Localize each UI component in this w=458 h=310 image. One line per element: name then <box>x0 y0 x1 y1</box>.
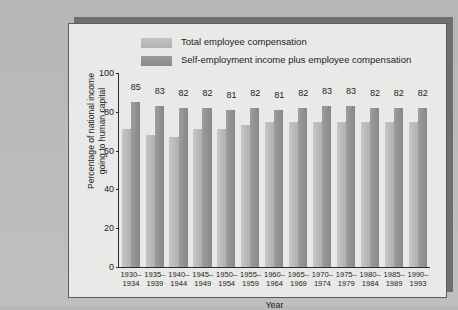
bar-series-2[interactable] <box>226 110 235 267</box>
x-axis-tick-label-line: 1984 <box>358 280 382 289</box>
bar-value-label: 82 <box>202 88 211 98</box>
bar-series-1[interactable] <box>361 122 370 268</box>
bar-series-2[interactable] <box>418 108 427 267</box>
bar-series-1[interactable] <box>169 137 178 267</box>
bar-series-1[interactable] <box>265 122 274 268</box>
bar-series-1[interactable] <box>385 122 394 268</box>
x-axis-tick-label-line: 1944 <box>167 280 191 289</box>
x-axis-title: Year <box>119 300 430 310</box>
bar-group: 831935–1939 <box>143 73 167 267</box>
x-axis-tick-label-line: 1959 <box>239 280 263 289</box>
x-axis-tick-label-line: 1934 <box>119 280 143 289</box>
bar-group: 811950–1954 <box>215 73 239 267</box>
bar-series-1[interactable] <box>241 125 250 267</box>
x-axis-tick-label: 1935–1939 <box>143 271 167 288</box>
bar-value-label: 82 <box>418 88 427 98</box>
x-axis-tick-label: 1940–1944 <box>167 271 191 288</box>
bar-group: 851930–1934 <box>119 73 143 267</box>
bar-value-label: 82 <box>298 88 307 98</box>
bar-value-label: 82 <box>250 88 259 98</box>
legend-item-total-employee-compensation: Total employee compensation <box>141 36 411 48</box>
bar-value-label: 83 <box>322 86 331 96</box>
x-axis-tick-label-line: 1949 <box>191 280 215 289</box>
legend-item-self-employment-plus: Self-employment income plus employee com… <box>141 54 411 66</box>
x-axis-tick-label: 1945–1949 <box>191 271 215 288</box>
bar-series-2[interactable] <box>131 102 140 267</box>
bar-series-2[interactable] <box>346 106 355 267</box>
x-axis-tick-label-line: 1989 <box>382 280 406 289</box>
bar-groups: 851930–1934831935–1939821940–1944821945–… <box>119 73 430 267</box>
bar-series-1[interactable] <box>337 122 346 268</box>
legend-swatch-icon-series-1 <box>141 38 172 48</box>
bar-series-2[interactable] <box>155 106 164 267</box>
bar-value-label: 83 <box>155 86 164 96</box>
x-axis-tick-label: 1950–1954 <box>215 271 239 288</box>
legend-label-series-1: Total employee compensation <box>181 36 307 47</box>
bar-value-label: 85 <box>131 82 140 92</box>
bar-series-1[interactable] <box>313 122 322 268</box>
x-axis-tick-label-line: 1964 <box>263 280 287 289</box>
y-axis-title-line1: Percentage of national income <box>86 41 97 221</box>
x-axis-tick-label-line: 1974 <box>310 280 334 289</box>
x-axis-tick-label: 1980–1984 <box>358 271 382 288</box>
bar-group: 821990–1993 <box>406 73 430 267</box>
legend-label-series-2-line1: Self-employment income plus <box>181 54 306 65</box>
bar-series-2[interactable] <box>179 108 188 267</box>
bar-value-label: 81 <box>274 90 283 100</box>
bar-series-1[interactable] <box>122 129 131 267</box>
x-axis-line <box>118 267 430 268</box>
bar-group: 821985–1989 <box>382 73 406 267</box>
x-axis-tick-label: 1985–1989 <box>382 271 406 288</box>
x-axis-tick-label-line: 1979 <box>334 280 358 289</box>
x-axis-tick-label: 1960–1964 <box>263 271 287 288</box>
bar-series-2[interactable] <box>202 108 211 267</box>
bar-group: 821945–1949 <box>191 73 215 267</box>
x-axis-tick-label-line: 1939 <box>143 280 167 289</box>
bar-series-2[interactable] <box>250 108 259 267</box>
bar-value-label: 81 <box>226 90 235 100</box>
bar-group: 821940–1944 <box>167 73 191 267</box>
bar-group: 831970–1974 <box>310 73 334 267</box>
x-axis-tick-label: 1965–1969 <box>286 271 310 288</box>
bar-value-label: 82 <box>370 88 379 98</box>
bar-series-2[interactable] <box>274 110 283 267</box>
x-axis-tick-label: 1970–1974 <box>310 271 334 288</box>
x-axis-tick-label: 1930–1934 <box>119 271 143 288</box>
bar-series-2[interactable] <box>322 106 331 267</box>
x-axis-tick-label: 1955–1959 <box>239 271 263 288</box>
x-axis-tick-label: 1975–1979 <box>334 271 358 288</box>
bar-group: 821980–1984 <box>358 73 382 267</box>
bar-series-2[interactable] <box>370 108 379 267</box>
x-axis-tick-label-line: 1969 <box>286 280 310 289</box>
bar-group: 831975–1979 <box>334 73 358 267</box>
bar-series-1[interactable] <box>289 122 298 268</box>
bar-series-1[interactable] <box>146 135 155 267</box>
x-axis-tick-label: 1990–1993 <box>406 271 430 288</box>
legend-swatch-icon-series-2 <box>141 56 172 66</box>
x-axis-tick-label-line: 1993 <box>406 280 430 289</box>
plot-area: 020406080100 851930–1934831935–193982194… <box>119 73 430 267</box>
bar-group: 821955–1959 <box>239 73 263 267</box>
bar-value-label: 82 <box>179 88 188 98</box>
x-axis-tick-label-line: 1954 <box>215 280 239 289</box>
bar-series-1[interactable] <box>217 129 226 267</box>
chart-panel: Total employee compensation Self-employm… <box>68 23 447 298</box>
bar-series-1[interactable] <box>409 122 418 268</box>
legend-label-series-2: Self-employment income plus employee com… <box>181 54 411 65</box>
chart-legend: Total employee compensation Self-employm… <box>141 36 411 72</box>
bar-series-2[interactable] <box>298 108 307 267</box>
bar-value-label: 82 <box>394 88 403 98</box>
bar-group: 821965–1969 <box>286 73 310 267</box>
legend-label-series-2-line2: employee compensation <box>308 54 411 65</box>
bar-series-1[interactable] <box>193 129 202 267</box>
y-axis-tick-mark-0 <box>116 267 119 268</box>
bar-group: 811960–1964 <box>263 73 287 267</box>
bar-series-2[interactable] <box>394 108 403 267</box>
bar-value-label: 83 <box>346 86 355 96</box>
